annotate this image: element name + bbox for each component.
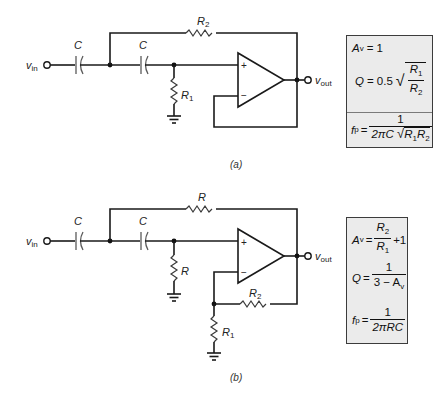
- panel-a-circuit: vin C C R2 R1: [26, 15, 332, 170]
- plus-label-a: +: [241, 60, 247, 71]
- r1-label-a: R1: [181, 89, 194, 103]
- minus-label-b: −: [241, 267, 247, 278]
- r-feedback-label-b: R: [198, 191, 206, 203]
- vin-label-b: vin: [26, 235, 38, 249]
- equation-box-b: Av = R2 R1 +1 Q = 1 3 − Av fp = 1 2πRC: [346, 217, 408, 344]
- caption-b: (b): [230, 372, 242, 383]
- resistor-r2-a: [186, 30, 212, 36]
- cap1-label-a: C: [74, 39, 82, 51]
- equation-box-a: Av = 1 Q = 0.5 √ R1 R2 fp = 1 2πC √R1R2: [346, 35, 433, 148]
- caption-a: (a): [230, 159, 242, 170]
- minus-label-a: −: [241, 90, 247, 101]
- ground-icon-b1: [167, 294, 181, 301]
- cap2-label-a: C: [139, 39, 147, 51]
- vout-label-b: vout: [315, 250, 332, 264]
- vout-terminal-a: [305, 77, 311, 83]
- cap1-label-b: C: [74, 215, 82, 227]
- ground-icon-a: [167, 116, 181, 123]
- plus-label-b: +: [241, 237, 247, 248]
- vin-terminal-b: [44, 238, 50, 244]
- r-shunt-label-b: R: [181, 265, 189, 277]
- q-equation-b: Q = 1 3 − Av: [352, 261, 408, 294]
- resistor-r1-a: [171, 78, 177, 104]
- resistor-r-feedback-b: [186, 206, 212, 212]
- vin-terminal-a: [44, 62, 50, 68]
- q-equation-a: Q = 0.5 √ R1 R2: [355, 62, 426, 100]
- resistor-r1-b: [211, 316, 217, 342]
- resistor-r-shunt-b: [171, 255, 177, 281]
- av-equation-a: Av = 1: [352, 42, 383, 54]
- av-equation-b: Av = R2 R1 +1: [352, 221, 406, 258]
- r2-label-b: R2: [249, 287, 262, 301]
- fp-equation-b: fp = 1 2πRC: [352, 306, 407, 334]
- resistor-r2-b: [240, 301, 266, 307]
- r2-label-a: R2: [197, 15, 210, 29]
- vin-label-a: vin: [26, 59, 38, 73]
- cap2-label-b: C: [139, 215, 147, 227]
- fp-equation-a: fp = 1 2πC √R1R2: [351, 113, 434, 146]
- ground-icon-b2: [207, 353, 221, 360]
- vout-terminal-b: [305, 253, 311, 259]
- r1-label-b: R1: [222, 326, 235, 340]
- panel-b-circuit: vin C C R R + −: [26, 191, 332, 383]
- vout-label-a: vout: [315, 74, 332, 88]
